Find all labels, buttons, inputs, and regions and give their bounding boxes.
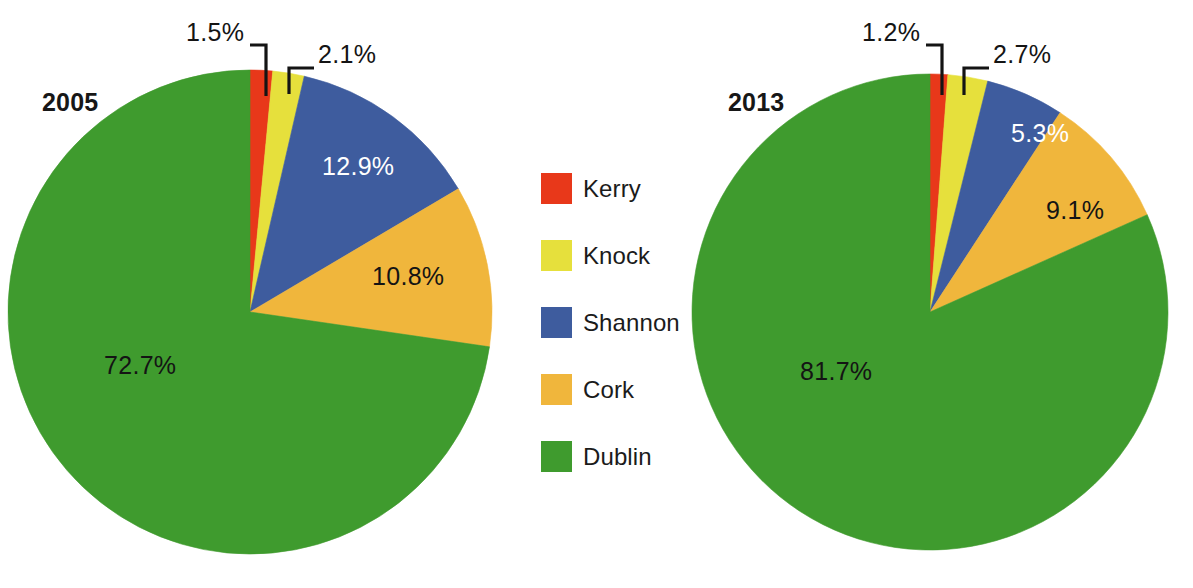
slice-label-2013-knock: 2.7% (993, 40, 1051, 69)
legend-label-cork: Cork (583, 376, 634, 404)
legend-label-knock: Knock (583, 242, 650, 270)
slice-label-2013-dublin: 81.7% (800, 357, 872, 386)
slice-label-2013-kerry: 1.2% (862, 18, 920, 47)
legend: Kerry Knock Shannon Cork Dublin (541, 155, 681, 490)
legend-item-dublin[interactable]: Dublin (541, 423, 681, 490)
legend-label-shannon: Shannon (583, 309, 680, 337)
slice-label-2005-dublin: 72.7% (104, 351, 176, 380)
slice-label-2005-kerry: 1.5% (186, 18, 244, 47)
legend-label-dublin: Dublin (583, 443, 652, 471)
legend-swatch-knock (541, 240, 572, 271)
legend-swatch-kerry (541, 173, 572, 204)
pie-2005 (8, 70, 492, 554)
legend-item-knock[interactable]: Knock (541, 222, 681, 289)
legend-item-cork[interactable]: Cork (541, 356, 681, 423)
legend-item-kerry[interactable]: Kerry (541, 155, 681, 222)
chart-title-2005: 2005 (42, 88, 98, 117)
chart-title-2013: 2013 (728, 88, 784, 117)
pie-2013 (692, 74, 1168, 550)
legend-label-kerry: Kerry (583, 175, 641, 203)
legend-item-shannon[interactable]: Shannon (541, 289, 681, 356)
legend-swatch-cork (541, 374, 572, 405)
slice-label-2005-shannon: 12.9% (322, 152, 394, 181)
legend-swatch-dublin (541, 441, 572, 472)
slice-label-2005-cork: 10.8% (372, 262, 444, 291)
legend-swatch-shannon (541, 307, 572, 338)
pie-chart-figure: 2005 2013 1.5% 2.1% 12.9% 10.8% 72.7% 1.… (0, 0, 1193, 588)
slice-label-2005-knock: 2.1% (318, 40, 376, 69)
slice-label-2013-cork: 9.1% (1046, 196, 1104, 225)
slice-label-2013-shannon: 5.3% (1011, 119, 1069, 148)
